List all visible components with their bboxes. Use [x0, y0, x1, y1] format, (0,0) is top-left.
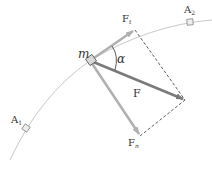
mass-label: m	[78, 47, 89, 61]
point-a2-marker	[187, 19, 194, 26]
angle-arc	[112, 46, 116, 70]
tangential-force-arrow	[91, 31, 133, 60]
angle-label: α	[117, 52, 125, 66]
tangential-force-label: Ft	[122, 13, 132, 25]
point-a2-label: A2	[183, 4, 195, 16]
normal-force-label: Fn	[128, 137, 139, 149]
normal-force-arrow	[91, 62, 139, 134]
force-diagram: m α F Ft Fn A1 A2	[0, 0, 212, 169]
point-a1-label: A1	[10, 114, 22, 126]
force-label: F	[133, 87, 141, 100]
dashed-line-normal-to-force	[140, 100, 185, 136]
